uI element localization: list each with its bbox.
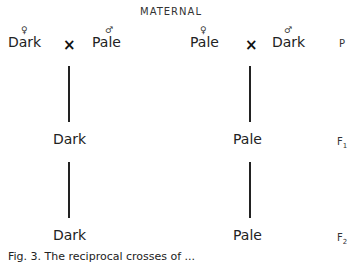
left-connector-p-f1 (68, 66, 70, 122)
right-female-parent: Pale (190, 34, 219, 50)
right-male-parent: Dark (272, 34, 305, 50)
generation-label-f1: F1 (337, 136, 347, 150)
generation-label-p: P (339, 38, 345, 49)
left-female-parent: Dark (8, 34, 41, 50)
cross-icon: × (245, 36, 258, 54)
generation-label-f2: F2 (337, 232, 347, 246)
left-f2-phenotype: Dark (53, 227, 86, 243)
left-connector-f1-f2 (68, 162, 70, 218)
cross-icon: × (63, 36, 76, 54)
right-f1-phenotype: Pale (233, 131, 262, 147)
left-male-parent: Pale (92, 34, 121, 50)
right-f2-phenotype: Pale (233, 227, 262, 243)
left-f1-phenotype: Dark (53, 131, 86, 147)
diagram-title: MATERNAL (140, 6, 202, 17)
right-connector-f1-f2 (249, 162, 251, 218)
figure-caption: Fig. 3. The reciprocal crosses of ... (8, 250, 195, 263)
right-connector-p-f1 (249, 66, 251, 122)
